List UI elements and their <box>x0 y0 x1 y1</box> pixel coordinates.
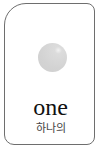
card-word: one <box>5 95 96 119</box>
card-translation: 하나의 <box>5 122 96 136</box>
flash-card: one 하나의 <box>4 3 95 145</box>
gray-circle-icon <box>38 43 67 72</box>
